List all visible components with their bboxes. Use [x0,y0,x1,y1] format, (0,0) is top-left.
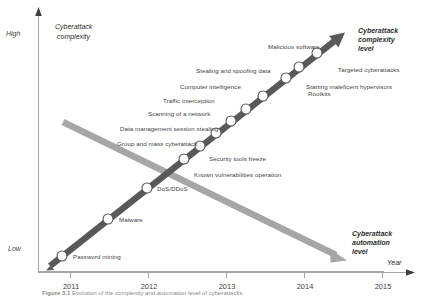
label-scanning-network: Scanning of a network [148,110,210,118]
x-tick-marks [71,273,383,279]
y-scale-high: High [6,30,20,37]
x-axis-title: Year [387,258,401,267]
y-axis-title-line2: complexity [57,32,90,41]
node-malware [103,214,113,224]
label-dos-ddos: DoS/DDoS [157,185,188,193]
y-axis [35,7,42,272]
node-computer-intelligence [281,73,291,83]
label-malware: Malware [119,216,143,224]
label-known-vulnerabilities: Known vulnerabilities operation [194,171,281,179]
node-data-management [226,116,236,126]
figure-caption-label: Figure 3.1 [42,290,70,296]
complexity-level-label-line3: level [358,44,374,53]
label-password-mining: Password mining [73,253,121,261]
node-traffic-interception [258,91,268,101]
automation-level-label-line3: level [352,247,368,256]
node-dos-ddos [142,183,152,193]
node-password-mining [57,251,67,261]
node-known-vulnerabilities [179,154,189,164]
label-data-management: Data management session stealing [120,125,218,133]
y-scale-low: Low [8,245,21,252]
label-maleficent-hypervisors: Starting maleficent hypervisors [306,83,392,91]
figure-canvas: High Low Cyberattack complexity Year 201… [0,0,431,303]
label-security-tools-freeze: Security tools freeze [209,155,266,163]
label-rootkits: Rootkits [308,90,331,98]
label-malicious-software: Malicious software [268,43,320,51]
figure-caption: Figure 3.1 Evolution of the complexity a… [42,290,422,296]
figure-caption-text: Evolution of the complexity and automati… [72,290,242,296]
label-stealing-spoofing: Stealing and spoofing data [196,67,271,75]
y-axis-title-line1: Cyberattack [55,22,92,31]
node-scanning-network [241,104,251,114]
label-group-mass: Group and mass cyberattack [117,140,197,148]
label-computer-intelligence: Computer intelligence [180,83,241,91]
label-traffic-interception: Traffic interception [163,97,215,105]
node-rootkits [294,62,304,72]
label-targeted-cyberattacks: Targeted cyberattacks [338,66,400,74]
